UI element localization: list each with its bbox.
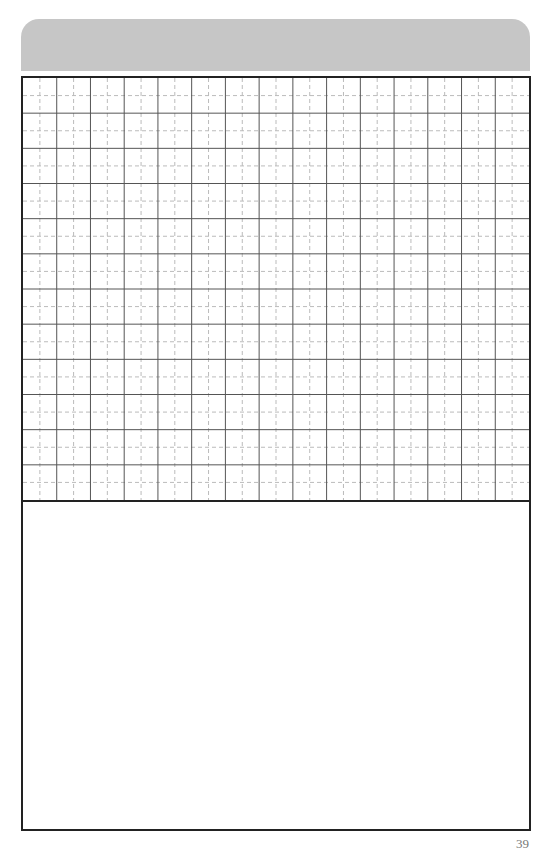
page-frame xyxy=(21,76,531,831)
page-number: 39 xyxy=(516,836,529,852)
notes-area[interactable] xyxy=(23,502,529,829)
grid-lines xyxy=(23,78,529,500)
header-bar xyxy=(21,19,530,71)
practice-grid xyxy=(23,78,529,502)
